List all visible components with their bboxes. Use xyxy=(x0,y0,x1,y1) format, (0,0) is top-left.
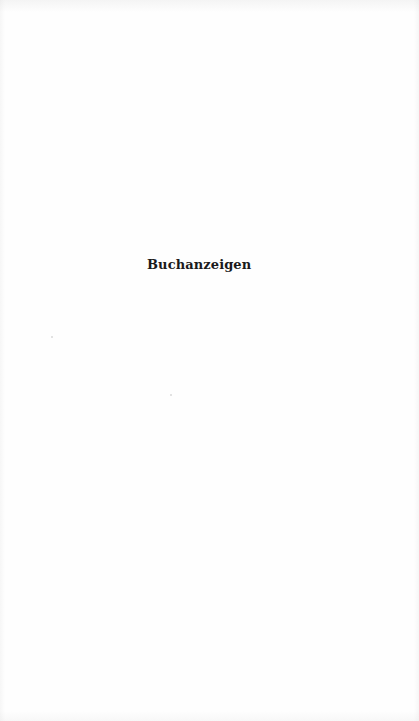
document-page: Buchanzeigen xyxy=(0,0,419,721)
page-edge-left xyxy=(0,0,5,721)
scan-speck xyxy=(51,336,53,338)
page-edge-right xyxy=(414,0,419,721)
page-title: Buchanzeigen xyxy=(147,257,251,272)
scan-bleed-top xyxy=(0,0,419,12)
scan-bleed-bottom xyxy=(0,711,419,721)
scan-speck xyxy=(170,394,172,396)
